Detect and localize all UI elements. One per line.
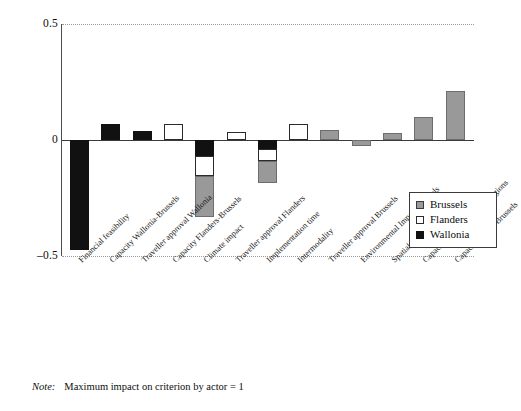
bar-column[interactable] — [64, 24, 95, 256]
bar-segment-wallonia[interactable] — [101, 124, 120, 140]
legend-label-flanders: Flanders — [430, 214, 468, 225]
bar-segment-flanders[interactable] — [289, 124, 308, 140]
bar-column[interactable] — [314, 24, 345, 256]
bar-segment-flanders[interactable] — [164, 124, 183, 140]
note-label: Note: — [32, 381, 55, 392]
legend-item-brussels[interactable]: Brussels — [416, 197, 491, 212]
bar-segment-flanders[interactable] — [227, 132, 246, 140]
legend-swatch-flanders-icon — [416, 216, 424, 224]
bar-segment-brussels[interactable] — [414, 117, 433, 140]
y-tick-label-0: 0.5 — [30, 18, 58, 30]
figure-container: 0.5 0 –0.5 Financial feasibilityCapacity… — [0, 0, 521, 411]
bar-segment-brussels[interactable] — [352, 140, 371, 146]
bar-column[interactable] — [221, 24, 252, 256]
note-text: Maximum impact on criterion by actor = 1 — [64, 381, 243, 392]
legend-label-wallonia: Wallonia — [430, 229, 469, 240]
bar-segment-brussels[interactable] — [320, 130, 339, 140]
bar-segment-flanders[interactable] — [195, 156, 214, 176]
y-tick-label-1: 0 — [30, 134, 58, 146]
bar-segment-brussels[interactable] — [258, 161, 277, 183]
legend-item-flanders[interactable]: Flanders — [416, 212, 491, 227]
bar-segment-wallonia[interactable] — [195, 140, 214, 156]
bar-segment-wallonia[interactable] — [133, 131, 152, 140]
bar-segment-flanders[interactable] — [258, 149, 277, 161]
bar-segment-brussels[interactable] — [383, 133, 402, 140]
chart-legend: Brussels Flanders Wallonia — [409, 192, 497, 248]
legend-swatch-wallonia-icon — [416, 231, 424, 239]
x-axis-labels: Financial feasibilityCapacity Wallonia-B… — [0, 258, 521, 366]
bar-segment-brussels[interactable] — [446, 91, 465, 140]
legend-label-brussels: Brussels — [430, 199, 467, 210]
bar-segment-wallonia[interactable] — [70, 140, 89, 250]
legend-item-wallonia[interactable]: Wallonia — [416, 227, 491, 242]
figure-note: Note:Maximum impact on criterion by acto… — [32, 381, 244, 393]
bar-segment-wallonia[interactable] — [258, 140, 277, 149]
legend-swatch-brussels-icon — [416, 201, 424, 209]
